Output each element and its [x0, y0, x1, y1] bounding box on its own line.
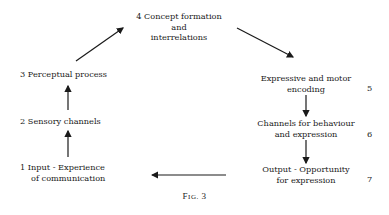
- node-2-sensory-channels: 2 Sensory channels: [20, 116, 101, 127]
- node-4-concept-formation: 4 Concept formation and interrelations: [124, 11, 234, 43]
- figure-caption: FIG. 3: [0, 191, 389, 201]
- node-5-expressive-motor-encoding: Expressive and motor encoding: [250, 73, 362, 94]
- node-5-number: 5: [367, 83, 372, 93]
- node-6-number: 6: [367, 129, 372, 139]
- arrow-4-to-5: [237, 28, 293, 57]
- node-7-number: 7: [367, 174, 372, 184]
- node-3-perceptual-process: 3 Perceptual process: [20, 69, 107, 80]
- node-1-input: 1 Input - Experience of communication: [20, 162, 105, 183]
- node-7-output: Output - Opportunity for expression: [252, 164, 360, 185]
- node-6-channels-behaviour: Channels for behaviour and expression: [250, 118, 362, 139]
- arrow-3-to-4: [76, 28, 123, 61]
